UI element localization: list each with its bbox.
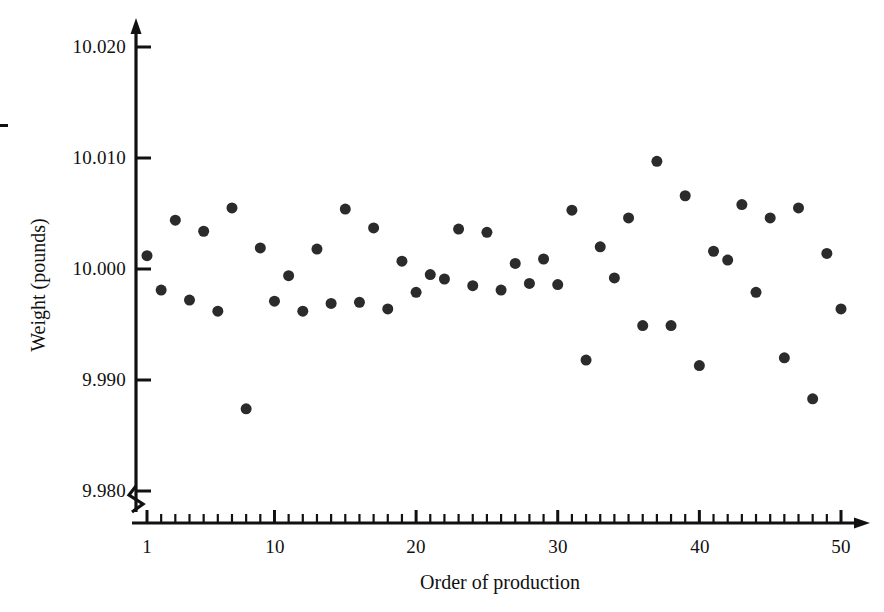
data-point: [666, 320, 677, 331]
y-tick-label-9.980: 9.980: [54, 480, 126, 502]
data-point: [396, 256, 407, 267]
data-point: [326, 298, 337, 309]
y-tick-label-10.010: 10.010: [54, 147, 126, 169]
x-axis-ticks: [147, 510, 841, 523]
data-point: [340, 204, 351, 215]
data-point: [708, 246, 719, 257]
y-tick-label-10.000: 10.000: [54, 258, 126, 280]
x-tick-label-40: 40: [690, 536, 709, 558]
y-axis-title: Weight (pounds): [27, 218, 50, 351]
data-point: [269, 296, 280, 307]
data-point: [722, 255, 733, 266]
data-point: [765, 212, 776, 223]
data-point: [198, 226, 209, 237]
data-point: [751, 287, 762, 298]
data-point: [623, 212, 634, 223]
data-point: [651, 156, 662, 167]
data-point-series: [142, 156, 847, 415]
data-point: [524, 278, 535, 289]
data-point: [510, 258, 521, 269]
data-point: [142, 250, 153, 261]
data-point: [481, 227, 492, 238]
data-point: [807, 393, 818, 404]
data-point: [566, 205, 577, 216]
data-point: [297, 306, 308, 317]
data-point: [609, 272, 620, 283]
data-point: [411, 287, 422, 298]
x-axis-title: Order of production: [420, 571, 580, 594]
data-point: [538, 254, 549, 265]
data-point: [467, 280, 478, 291]
plot-canvas: [0, 0, 884, 612]
data-point: [836, 303, 847, 314]
y-tick-label-9.990: 9.990: [54, 369, 126, 391]
data-point: [793, 202, 804, 213]
y-axis-ticks: [136, 47, 151, 491]
data-point: [226, 202, 237, 213]
data-point: [354, 297, 365, 308]
data-point: [694, 360, 705, 371]
data-point: [283, 270, 294, 281]
data-point: [581, 355, 592, 366]
data-point: [156, 285, 167, 296]
data-point: [552, 279, 563, 290]
scatter-plot-figure: 10.020 10.010 10.000 9.990 9.980 1 10 20…: [0, 0, 884, 612]
data-point: [439, 273, 450, 284]
data-point: [779, 352, 790, 363]
x-tick-label-30: 30: [548, 536, 567, 558]
data-point: [821, 248, 832, 259]
data-point: [184, 295, 195, 306]
data-point: [368, 222, 379, 233]
data-point: [311, 244, 322, 255]
x-tick-label-20: 20: [406, 536, 425, 558]
data-point: [212, 306, 223, 317]
data-point: [241, 403, 252, 414]
data-point: [595, 241, 606, 252]
data-point: [736, 199, 747, 210]
data-point: [453, 224, 464, 235]
data-point: [425, 269, 436, 280]
data-point: [496, 285, 507, 296]
data-point: [680, 190, 691, 201]
x-tick-label-50: 50: [831, 536, 850, 558]
x-tick-label-1: 1: [142, 536, 152, 558]
data-point: [170, 215, 181, 226]
x-tick-label-10: 10: [265, 536, 284, 558]
data-point: [255, 242, 266, 253]
data-point: [382, 303, 393, 314]
data-point: [637, 320, 648, 331]
y-axis: [129, 18, 143, 512]
y-tick-label-10.020: 10.020: [54, 36, 126, 58]
